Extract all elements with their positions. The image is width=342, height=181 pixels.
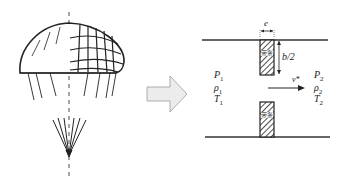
half-gap-label: b/2: [282, 52, 295, 62]
downstream-temperature: T2: [314, 94, 323, 107]
upstream-temperature-sub: 1: [220, 99, 224, 107]
upstream-temperature: T1: [214, 94, 223, 107]
diagram-canvas: [0, 0, 342, 181]
upper-ribbon-label: 带条: [261, 50, 273, 56]
velocity-label: v*: [292, 76, 300, 84]
downstream-pressure-sub: 2: [320, 75, 324, 83]
upper-ribbon: [260, 40, 274, 75]
parachute-icon: [20, 12, 124, 180]
upstream-pressure-sub: 1: [220, 75, 224, 83]
lower-ribbon-label: 带条: [261, 112, 273, 118]
transition-arrow-icon: [147, 76, 187, 112]
lower-ribbon: [260, 102, 274, 137]
downstream-temperature-sub: 2: [320, 99, 324, 107]
width-label-e: e: [264, 19, 268, 28]
